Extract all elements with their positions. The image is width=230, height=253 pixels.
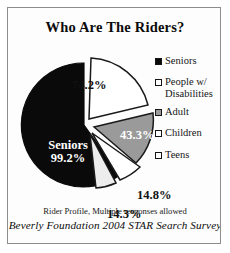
legend-label-teens: Teens bbox=[165, 149, 189, 160]
gray-swatch-icon bbox=[155, 109, 162, 116]
slice-label-children: 14.8% bbox=[137, 189, 171, 202]
chart-legend: Seniors People w/ Disabilities Adult Chi… bbox=[155, 55, 221, 170]
white-swatch-icon bbox=[155, 130, 162, 137]
legend-item-seniors[interactable]: Seniors bbox=[155, 55, 221, 66]
legend-label-disabilities-line2: Disabilities bbox=[165, 88, 213, 99]
footer-note: Rider Profile, Multiple responses allowe… bbox=[8, 206, 221, 216]
white-swatch-icon bbox=[155, 79, 162, 86]
pie-svg bbox=[12, 41, 162, 201]
chart-title: Who Are The Riders? bbox=[8, 19, 221, 36]
legend-label-disabilities-line1: People w/ bbox=[165, 76, 207, 87]
legend-label-seniors: Seniors bbox=[165, 55, 197, 66]
slice-label-seniors: Seniors 99.2% bbox=[37, 139, 99, 165]
legend-label-children: Children bbox=[165, 127, 202, 138]
legend-label-adult: Adult bbox=[165, 106, 189, 117]
white-swatch-icon bbox=[155, 152, 162, 159]
footer-source: Beverly Foundation 2004 STAR Search Surv… bbox=[8, 219, 221, 231]
legend-item-adult[interactable]: Adult bbox=[155, 106, 221, 117]
slice-label-disabilities: 74.2% bbox=[72, 79, 106, 92]
black-swatch-icon bbox=[155, 58, 162, 65]
legend-item-disabilities[interactable]: People w/ Disabilities bbox=[155, 76, 221, 99]
pie-chart: 74.2% Seniors 99.2% 43.3% 14.8% 14.3% bbox=[12, 41, 162, 201]
chart-frame: Who Are The Riders? 74.2% Seniors 99.2% … bbox=[7, 7, 221, 244]
legend-item-teens[interactable]: Teens bbox=[155, 149, 221, 160]
slice-label-seniors-name: Seniors bbox=[48, 138, 88, 152]
legend-label-disabilities: People w/ Disabilities bbox=[165, 76, 213, 99]
legend-item-children[interactable]: Children bbox=[155, 127, 221, 138]
slice-label-seniors-value: 99.2% bbox=[37, 152, 99, 165]
slice-label-adult: 43.3% bbox=[120, 129, 154, 142]
